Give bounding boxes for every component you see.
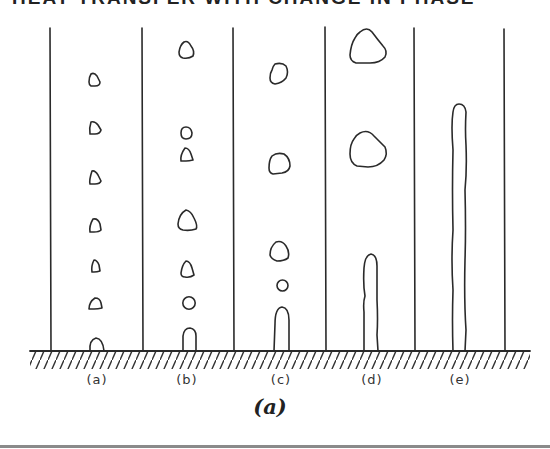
- panel-label-d: (d): [361, 372, 382, 387]
- panel-label-e: (e): [449, 372, 470, 387]
- panel-d-bubbles: [350, 29, 386, 351]
- panel-b-bubbles: [178, 42, 197, 352]
- divider-line: [504, 29, 505, 351]
- divider-line: [142, 28, 143, 351]
- panel-label-b: (b): [176, 372, 197, 387]
- panel-a-bubbles: [89, 73, 104, 351]
- panel-c-bubbles: [269, 63, 290, 351]
- divider-line: [50, 28, 51, 351]
- heated-surface-hatch: [30, 352, 530, 369]
- divider-line: [414, 28, 415, 351]
- panel-label-c: (c): [271, 372, 291, 387]
- divider-line: [233, 28, 234, 351]
- bottom-divider: [0, 445, 550, 448]
- panel-e-vapor-column: [452, 104, 466, 351]
- figure-caption: (a): [253, 394, 286, 419]
- divider-line: [325, 27, 326, 351]
- panel-label-a: (a): [86, 372, 107, 387]
